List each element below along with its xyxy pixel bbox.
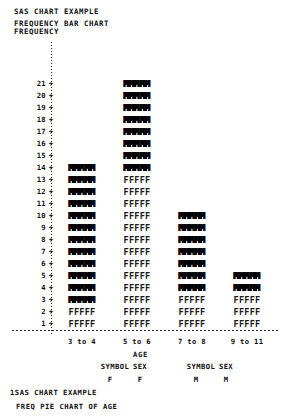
sas-chart-page: SAS CHART EXAMPLE FREQUENCY BAR CHART FR… — [0, 0, 281, 416]
bar-segment-row-M: MMMMM — [62, 186, 102, 198]
bar-segment-row-F: FFFFF — [117, 318, 157, 330]
bar-segment-row-F: FFFFF — [117, 306, 157, 318]
legend-symbol: F — [100, 375, 120, 384]
bar-segment-row-F: FFFFF — [227, 306, 267, 318]
bar-segment-row-M: MMMMM — [62, 246, 102, 258]
bar-segment-row-F: FFFFF — [117, 210, 157, 222]
bars-layer: FFFFFFFFFFMMMMMMMMMMMMMMMMMMMMMMMMMMMMMM… — [0, 42, 281, 334]
bar: FFFFFFFFFFFFFFFMMMMMMMMMMMMMMMMMMMMMMMMM… — [172, 210, 212, 330]
bar-segment-row-F: FFFFF — [117, 222, 157, 234]
bar-segment-row-M: MMMMM — [62, 282, 102, 294]
bar-segment-row-F: FFFFF — [172, 306, 212, 318]
bar-segment-row-M: MMMMM — [117, 114, 157, 126]
bar-segment-row-M: MMMMM — [62, 174, 102, 186]
bar-segment-row-F: FFFFF — [117, 246, 157, 258]
bar-segment-row-M: MMMMM — [62, 210, 102, 222]
bar-segment-row-M: MMMMM — [117, 138, 157, 150]
bar-segment-row-M: MMMMM — [172, 270, 212, 282]
bar-segment-row-M: MMMMM — [227, 282, 267, 294]
bar-segment-row-M: MMMMM — [117, 150, 157, 162]
footer-line-1: 1SAS CHART EXAMPLE — [10, 388, 97, 397]
bar-segment-row-M: MMMMM — [117, 162, 157, 174]
x-category-label: 7 to 8 — [162, 337, 222, 346]
bar-segment-row-M: MMMMM — [62, 270, 102, 282]
bar-segment-row-M: MMMMM — [62, 258, 102, 270]
bar-segment-row-F: FFFFF — [62, 306, 102, 318]
bar-segment-row-M: MMMMM — [227, 270, 267, 282]
bar-segment-row-F: FFFFF — [117, 270, 157, 282]
bar-segment-row-M: MMMMM — [117, 126, 157, 138]
bar-segment-row-M: MMMMM — [62, 294, 102, 306]
bar-segment-row-F: FFFFF — [117, 234, 157, 246]
plot-area: 21+20+19+18+17+16+15+14+13+12+11+10+9+8+… — [0, 42, 281, 334]
bar-segment-row-M: MMMMM — [172, 210, 212, 222]
x-category-label: 3 to 4 — [52, 337, 112, 346]
bar-segment-row-F: FFFFF — [172, 318, 212, 330]
bar-segment-row-M: MMMMM — [172, 246, 212, 258]
legend-header-value: SEX — [216, 362, 236, 371]
bar-segment-row-M: MMMMM — [172, 234, 212, 246]
bar-segment-row-M: MMMMM — [62, 222, 102, 234]
x-axis-name: AGE — [0, 350, 281, 359]
bar-segment-row-M: MMMMM — [117, 102, 157, 114]
bar-segment-row-F: FFFFF — [172, 294, 212, 306]
legend-symbol: M — [186, 375, 206, 384]
bar-segment-row-M: MMMMM — [62, 162, 102, 174]
bar-segment-row-M: MMMMM — [172, 258, 212, 270]
x-category-label: 5 to 6 — [107, 337, 167, 346]
bar-segment-row-M: MMMMM — [172, 282, 212, 294]
bar: FFFFFFFFFFMMMMMMMMMMMMMMMMMMMMMMMMMMMMMM… — [62, 162, 102, 330]
bar-segment-row-F: FFFFF — [227, 294, 267, 306]
chart-header: SAS CHART EXAMPLE FREQUENCY BAR CHART FR… — [14, 8, 109, 35]
bar-segment-row-F: FFFFF — [117, 258, 157, 270]
bar: FFFFFFFFFFFFFFFFFFFFFFFFFFFFFFFFFFFFFFFF… — [117, 78, 157, 330]
bar-segment-row-F: FFFFF — [227, 318, 267, 330]
legend-header-value: SEX — [130, 362, 150, 371]
bar-segment-row-M: MMMMM — [172, 222, 212, 234]
y-axis-name: FREQUENCY — [14, 28, 109, 35]
x-category-label: 9 to 11 — [217, 337, 277, 346]
bar-segment-row-F: FFFFF — [117, 294, 157, 306]
bar-segment-row-M: MMMMM — [62, 234, 102, 246]
bar-segment-row-M: MMMMM — [117, 78, 157, 90]
legend-value: M — [216, 375, 236, 384]
report-title: SAS CHART EXAMPLE — [14, 8, 109, 15]
bar-segment-row-F: FFFFF — [62, 318, 102, 330]
bar-segment-row-M: MMMMM — [117, 90, 157, 102]
legend-value: F — [130, 375, 150, 384]
x-axis-line — [12, 330, 279, 331]
bar-segment-row-F: FFFFF — [117, 198, 157, 210]
bar-segment-row-F: FFFFF — [117, 282, 157, 294]
bar-segment-row-F: FFFFF — [117, 174, 157, 186]
bar-segment-row-M: MMMMM — [62, 198, 102, 210]
bar-segment-row-F: FFFFF — [117, 186, 157, 198]
footer-line-2: FREQ PIE CHART OF AGE — [16, 402, 117, 411]
bar: FFFFFFFFFFFFFFFMMMMMMMMMM — [227, 270, 267, 330]
